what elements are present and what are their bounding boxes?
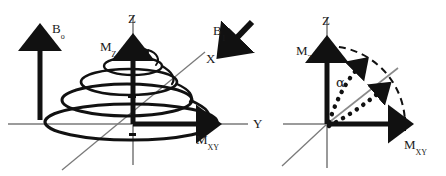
b1-pulse-arrow (228, 22, 252, 47)
right-x-axis (282, 124, 327, 166)
b0-label: Bo (52, 22, 65, 39)
right-z-axis-label: Z (322, 14, 330, 27)
b1-label: B1 (213, 24, 226, 41)
left-y-axis-label: Y (253, 117, 262, 130)
flip-angle-arc (320, 46, 405, 131)
right-mz-label: MZ (296, 44, 312, 61)
left-x-axis-label: X (206, 52, 215, 65)
right-mxy-label: MXY (404, 138, 427, 155)
left-z-axis-label: Z (128, 12, 136, 25)
left-mxy-label: MXY (196, 133, 219, 150)
left-mz-label: MZ (100, 40, 116, 57)
nmr-magnetization-figure: Bo Z MZ X Y MXY B1 Z MZ α MXY (0, 0, 446, 176)
rotation-arrow-lower (329, 90, 382, 126)
alpha-angle-label: α (336, 76, 345, 89)
